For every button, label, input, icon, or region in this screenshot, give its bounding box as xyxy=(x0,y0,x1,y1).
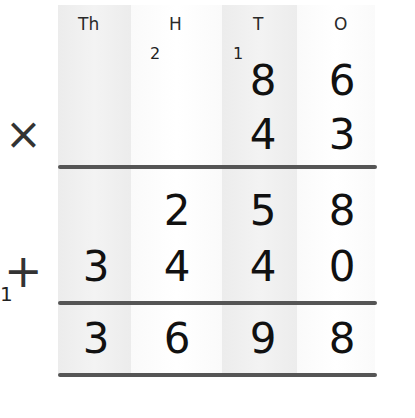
header-ones: O xyxy=(334,14,347,34)
header-thousands: Th xyxy=(78,14,99,34)
partial2-ones: 0 xyxy=(312,246,372,288)
multiply-sign: × xyxy=(5,112,42,156)
partial1-tens: 5 xyxy=(233,190,293,232)
carry-addition: 1 xyxy=(0,282,13,306)
result-ones: 8 xyxy=(312,318,372,360)
multiplicand-ones: 6 xyxy=(312,60,372,102)
result-hundreds: 6 xyxy=(147,318,207,360)
result-tens: 9 xyxy=(233,318,293,360)
multiplier-tens: 4 xyxy=(233,114,293,156)
header-hundreds: H xyxy=(169,14,182,34)
carry-hundreds: 2 xyxy=(150,44,160,63)
rule-1 xyxy=(58,165,377,169)
header-tens: T xyxy=(253,14,263,34)
partial1-hundreds: 2 xyxy=(147,190,207,232)
multiplier-ones: 3 xyxy=(312,114,372,156)
result-thousands: 3 xyxy=(66,318,126,360)
partial2-tens: 4 xyxy=(233,246,293,288)
partial1-ones: 8 xyxy=(312,190,372,232)
rule-2 xyxy=(58,301,377,305)
rule-3 xyxy=(58,373,377,377)
multiplicand-tens: 8 xyxy=(233,60,293,102)
partial2-hundreds: 4 xyxy=(147,246,207,288)
partial2-thousands: 3 xyxy=(66,246,126,288)
